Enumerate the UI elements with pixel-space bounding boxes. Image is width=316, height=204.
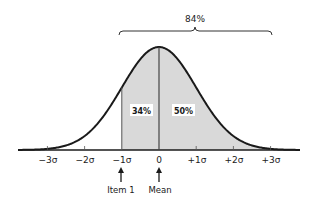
tick-label-plus-1-sigma: +1σ (188, 155, 207, 165)
tick-label-minus-1-sigma: −1σ (113, 155, 132, 165)
item-1-arrow-icon (118, 167, 124, 182)
84-percent-bracket (119, 27, 272, 35)
region-label-50-percent: 50% (174, 107, 193, 116)
tick-label-minus-3-sigma: −3σ (39, 155, 58, 165)
shaded-area-above-minus-1-sigma (122, 47, 300, 150)
region-label-34-percent: 34% (132, 107, 151, 116)
tick-label-plus-3-sigma: +3σ (262, 155, 281, 165)
tick-label-minus-2-sigma: −2σ (76, 155, 95, 165)
item-1-label: Item 1 (107, 185, 134, 195)
mean-label: Mean (148, 185, 171, 195)
bracket-label: 84% (185, 14, 205, 24)
mean-arrow-icon (156, 167, 162, 182)
tick-label-plus-2-sigma: +2σ (225, 155, 244, 165)
tick-label-zero: 0 (156, 155, 162, 165)
normal-distribution-diagram: 84% 34% 50% −3σ −2σ −1σ 0 +1σ +2σ +3σ It… (0, 0, 316, 204)
